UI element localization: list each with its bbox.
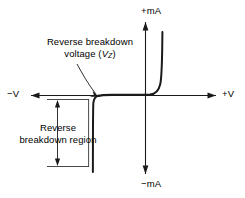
breakdown-region-callout-line1: Reverse xyxy=(40,122,76,133)
breakdown-voltage-callout-line1: Reverse breakdown xyxy=(47,36,133,47)
breakdown-region-callout-line2: breakdown region xyxy=(2,134,114,146)
breakdown-voltage-leader xyxy=(77,64,99,97)
breakdown-voltage-leader-line xyxy=(77,64,96,94)
breakdown-voltage-callout-label: Reverse breakdown voltage (VZ) xyxy=(38,36,142,61)
dimension-arrow-up-head xyxy=(55,100,60,108)
curve-reverse-leakage-segment xyxy=(99,95,146,96)
axis-label-negative-current: −mA xyxy=(141,178,161,190)
axis-label-positive-current: +mA xyxy=(141,5,161,17)
breakdown-region-callout-label: Reverse breakdown region xyxy=(2,122,114,145)
breakdown-voltage-prefix: voltage ( xyxy=(64,48,101,59)
breakdown-voltage-callout-line2: voltage (VZ) xyxy=(38,48,142,62)
breakdown-voltage-suffix: ) xyxy=(112,48,115,59)
zener-iv-characteristic-figure: +mA −mA −V +V Reverse breakdown voltage … xyxy=(0,0,245,198)
vertical-axis-top-arrowhead xyxy=(143,22,149,31)
axis-label-positive-voltage: +V xyxy=(222,88,234,100)
curve-forward-conduction-segment xyxy=(145,32,162,95)
horizontal-axis-left-arrowhead xyxy=(31,93,40,99)
diagram-canvas xyxy=(0,0,245,198)
vertical-axis-bottom-arrowhead xyxy=(143,166,149,175)
dimension-arrow-down-head xyxy=(55,159,60,167)
axis-label-negative-voltage: −V xyxy=(7,88,19,100)
horizontal-axis-right-arrowhead xyxy=(208,93,217,99)
vertical-axis xyxy=(143,22,149,174)
